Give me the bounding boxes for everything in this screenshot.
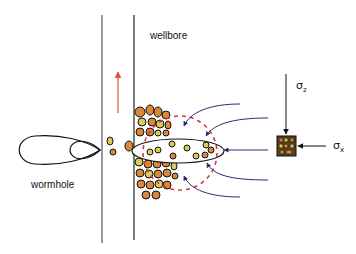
wormhole-label: wormhole — [31, 180, 74, 190]
sand-pack-lower — [135, 158, 178, 199]
wellbore-label: wellbore — [150, 31, 187, 41]
sigma-x-subscript: x — [340, 146, 344, 154]
sigma-z-symbol: σ — [296, 79, 303, 92]
sand-pack-upper — [135, 105, 171, 136]
sigma-z-subscript: z — [303, 86, 307, 94]
sigma-x-label: σx — [333, 140, 344, 154]
sigma-z-label: σz — [296, 80, 307, 94]
wormhole-shape — [19, 136, 100, 165]
sigma-x-symbol: σ — [333, 139, 340, 152]
rock-element-icon — [277, 136, 296, 156]
